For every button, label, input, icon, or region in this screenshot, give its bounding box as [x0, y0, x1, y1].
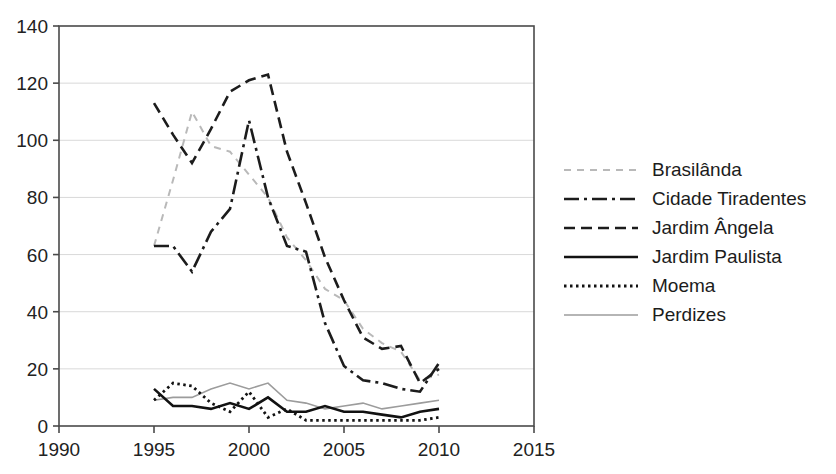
legend-line-sample: [562, 189, 640, 209]
x-axis-tick-label: 1995: [133, 439, 175, 460]
legend-item: Cidade Tiradentes: [562, 184, 806, 213]
legend-item: Jardim Ângela: [562, 213, 806, 242]
legend-line-sample: [562, 218, 640, 238]
series-line-brasilânda: [154, 112, 439, 381]
legend-item: Jardim Paulista: [562, 242, 806, 271]
legend: Brasilânda Cidade Tiradentes Jardim Ânge…: [562, 155, 806, 329]
legend-label: Jardim Paulista: [652, 246, 782, 268]
legend-line-sample: [562, 247, 640, 267]
y-axis-tick-label: 40: [27, 302, 48, 323]
y-axis-tick-label: 120: [16, 73, 48, 94]
legend-label: Perdizes: [652, 304, 726, 326]
y-axis-tick-label: 0: [37, 416, 48, 437]
y-axis-tick-label: 20: [27, 359, 48, 380]
series-line-cidade-tiradentes: [154, 120, 439, 391]
y-axis-tick-label: 60: [27, 245, 48, 266]
legend-label: Moema: [652, 275, 715, 297]
x-axis-tick-label: 2000: [228, 439, 270, 460]
plot-border: [59, 26, 534, 426]
y-axis-tick-label: 100: [16, 130, 48, 151]
legend-item: Moema: [562, 271, 806, 300]
legend-item: Brasilânda: [562, 155, 806, 184]
y-axis-tick-label: 140: [16, 16, 48, 37]
legend-label: Cidade Tiradentes: [652, 188, 806, 210]
y-axis-tick-label: 80: [27, 187, 48, 208]
x-axis-tick-label: 2005: [323, 439, 365, 460]
legend-label: Brasilânda: [652, 159, 742, 181]
legend-line-sample: [562, 305, 640, 325]
legend-line-sample: [562, 276, 640, 296]
x-axis-tick-label: 2015: [513, 439, 555, 460]
legend-item: Perdizes: [562, 300, 806, 329]
legend-line-sample: [562, 160, 640, 180]
x-axis-tick-label: 1990: [38, 439, 80, 460]
legend-label: Jardim Ângela: [652, 217, 773, 239]
x-axis-tick-label: 2010: [418, 439, 460, 460]
